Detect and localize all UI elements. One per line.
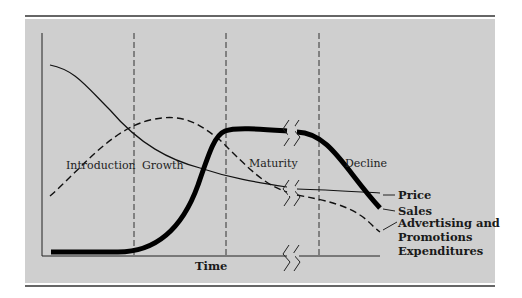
sales-break-gap [288,126,295,138]
stage-label-introduction: Introduction [66,159,136,172]
legend-price: Price [398,188,431,202]
x-axis-label: Time [195,259,227,273]
legend-advertising-line3: Expenditures [398,244,483,258]
product-life-cycle-diagram: Introduction Growth Maturity Decline Tim… [0,0,522,298]
axis-break-gap [288,253,295,259]
stage-label-decline: Decline [345,157,387,170]
stage-label-maturity: Maturity [249,157,299,170]
legend-advertising-line2: Promotions [398,230,472,244]
stage-label-growth: Growth [142,159,184,172]
legend-advertising-line1: Advertising and [397,216,500,230]
price-break-gap [288,186,295,196]
